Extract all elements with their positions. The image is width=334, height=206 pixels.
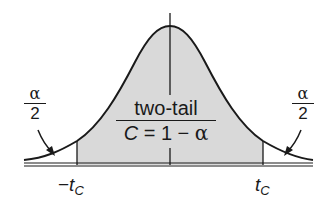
confidence-symbol: C	[124, 122, 138, 144]
right-t-subscript: C	[260, 183, 269, 198]
t-distribution-diagram: α 2 α 2 two-tail C = 1 − α −tC tC	[0, 0, 334, 206]
left-critical-label: −tC	[58, 174, 84, 198]
formula-equals: = 1 −	[138, 122, 195, 144]
formula-alpha: α	[195, 121, 209, 145]
right-tail-denominator: 2	[292, 104, 314, 124]
two-tail-title: two-tail	[116, 97, 216, 121]
confidence-formula: C = 1 − α	[116, 121, 216, 145]
minus-sign: −	[58, 174, 69, 195]
left-tail-denominator: 2	[24, 104, 46, 124]
right-critical-label: tC	[255, 174, 270, 198]
right-tail-fraction: α 2	[292, 85, 314, 124]
left-tail-fraction: α 2	[24, 85, 46, 124]
left-t-subscript: C	[74, 183, 83, 198]
center-label: two-tail C = 1 − α	[116, 97, 216, 145]
left-tail-numerator: α	[24, 85, 46, 104]
right-tail-numerator: α	[292, 85, 314, 104]
